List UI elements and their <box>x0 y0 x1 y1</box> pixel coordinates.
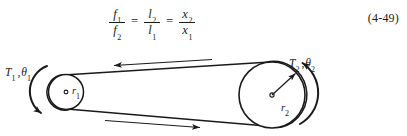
belt-pulley-diagram: T1,θ1 T2,θ2 r1 r2 <box>0 44 407 136</box>
fraction-x2-over-x1: x2 x1 <box>179 8 195 37</box>
equals-sign-1: = <box>131 14 138 30</box>
equals-sign-2: = <box>166 14 173 30</box>
fraction-numerator: f1 <box>110 8 123 21</box>
equation-4-49: f1 f2 = l2 l1 = x2 x1 <box>108 4 196 40</box>
fraction-denominator: x1 <box>179 24 195 37</box>
label-torque-angle-1: T1,θ1 <box>5 66 31 78</box>
belt-direction-arrow-bottom <box>105 121 200 128</box>
belt-upper-span <box>60 62 267 75</box>
fraction-f1-over-f2: f1 f2 <box>109 8 125 37</box>
fraction-numerator: l2 <box>145 8 158 21</box>
figure-page: f1 f2 = l2 l1 = x2 x1 (4-49) <box>0 0 407 136</box>
equation-number: (4-49) <box>368 11 399 26</box>
diagram-canvas <box>0 44 407 136</box>
label-radius-2: r2 <box>281 102 289 113</box>
label-radius-1: r1 <box>72 85 80 96</box>
fraction-numerator: x2 <box>179 8 195 21</box>
fraction-denominator: f2 <box>110 24 123 37</box>
left-torque-arc <box>30 66 47 113</box>
label-torque-angle-2: T2,θ2 <box>289 57 315 69</box>
small-pulley-hub <box>64 90 68 94</box>
belt-direction-arrow-top <box>114 60 212 66</box>
fraction-denominator: l1 <box>145 24 158 37</box>
fraction-l2-over-l1: l2 l1 <box>144 8 160 37</box>
